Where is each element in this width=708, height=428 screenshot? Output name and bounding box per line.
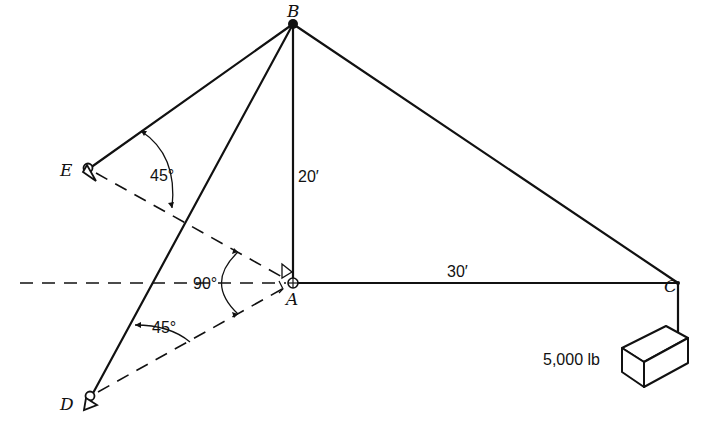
statics-diagram: B A C D E 20′ 30′ 45° 90° 45° 5,000 lb — [0, 0, 708, 428]
dashed-line-d-to-a — [98, 288, 284, 392]
dimension-ab: 20′ — [298, 168, 319, 185]
label-c: C — [664, 276, 677, 296]
angle-arcs — [135, 131, 238, 342]
load-box-icon — [622, 326, 688, 387]
anchor-d-icon — [84, 392, 97, 411]
angle-label-upper-45: 45° — [150, 167, 174, 184]
cable-be — [90, 24, 293, 168]
label-a: A — [284, 289, 298, 309]
label-e: E — [59, 160, 73, 180]
cable-bd — [92, 24, 293, 395]
angle-label-lower-45: 45° — [152, 319, 176, 336]
load-label: 5,000 lb — [543, 351, 600, 368]
label-d: D — [59, 394, 74, 414]
cable-bc — [293, 24, 678, 283]
dashed-line-e-to-a — [96, 173, 284, 278]
label-b: B — [286, 1, 300, 21]
members — [90, 24, 678, 395]
angle-label-90: 90° — [193, 275, 217, 292]
dimension-ac: 30′ — [447, 263, 468, 280]
